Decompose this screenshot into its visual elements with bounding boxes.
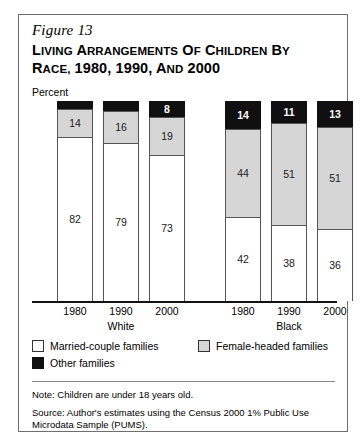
- legend-item-married[interactable]: Married-couple families: [32, 340, 159, 352]
- source-text: Source: Author's estimates using the Cen…: [32, 407, 328, 431]
- bar-segment-other: 11: [271, 101, 307, 123]
- bar-segment-value: 11: [283, 107, 294, 118]
- bar-segment-married: 82: [57, 137, 93, 301]
- bar-segment-female: 16: [103, 111, 139, 143]
- bar-segment-other: 14: [225, 101, 261, 129]
- chart-title-text: LIVING ARRANGEMENTS OF CHILDREN BY RACE,…: [32, 42, 290, 76]
- bar-segment-female: 19: [149, 117, 185, 155]
- bar-segment-other: 8: [149, 101, 185, 117]
- x-axis-group-label: Black: [254, 320, 324, 332]
- bar-stack: 1679: [103, 101, 139, 301]
- bar-segment-other: 13: [317, 101, 353, 127]
- bar-segment-value: 42: [237, 254, 249, 265]
- bar-stack: 81973: [149, 101, 185, 301]
- figure-number: Figure 13: [32, 22, 93, 39]
- x-axis-tick-label: 2000: [147, 305, 187, 317]
- bar-stack: 115138: [271, 101, 307, 301]
- bar-segment-married: 38: [271, 225, 307, 301]
- bar-segment-other: [103, 101, 139, 111]
- bar-stack: 144442: [225, 101, 261, 301]
- bar-segment-female: 51: [271, 123, 307, 225]
- bar-stack: 135136: [317, 101, 353, 301]
- legend-label-other: Other families: [50, 357, 115, 369]
- bar-segment-value: 44: [237, 168, 249, 179]
- legend-label-married: Married-couple families: [50, 340, 159, 352]
- chart-legend: Married-couple families Female-headed fa…: [32, 340, 332, 374]
- note-text: Note: Children are under 18 years old.: [32, 389, 332, 401]
- bar-segment-married: 73: [149, 155, 185, 301]
- bar-segment-female: 14: [57, 109, 93, 137]
- y-axis-unit-label: Percent: [32, 86, 68, 98]
- legend-swatch-married-icon: [32, 340, 44, 352]
- bar-segment-value: 82: [69, 214, 81, 225]
- bar-segment-married: 42: [225, 217, 261, 301]
- bar-segment-value: 38: [283, 258, 295, 269]
- bar-segment-value: 16: [115, 122, 127, 133]
- bar-segment-value: 51: [329, 173, 341, 184]
- bar-segment-married: 79: [103, 143, 139, 301]
- bar-segment-value: 73: [161, 223, 173, 234]
- legend-swatch-female-icon: [198, 340, 210, 352]
- bar-column[interactable]: 16795: [103, 101, 139, 301]
- bar-stack: 1482: [57, 101, 93, 301]
- bar-segment-married: 36: [317, 229, 353, 301]
- plot-area: 148241679581973144442115138135136: [32, 101, 337, 301]
- legend-item-other[interactable]: Other families: [32, 357, 115, 369]
- bar-segment-other: [57, 101, 93, 109]
- bar-segment-value: 36: [329, 260, 341, 271]
- x-axis-tick-label: 1990: [101, 305, 141, 317]
- page-title: LIVING ARRANGEMENTS OF CHILDREN BY RACE,…: [32, 42, 332, 78]
- x-axis-group-label: White: [86, 320, 156, 332]
- bar-segment-female: 44: [225, 129, 261, 217]
- bar-segment-value: 51: [283, 169, 295, 180]
- figure-container: Figure 13 LIVING ARRANGEMENTS OF CHILDRE…: [18, 14, 348, 432]
- bar-segment-value: 79: [115, 217, 127, 228]
- x-axis-tick-label: 2000: [315, 305, 355, 317]
- bar-segment-female: 51: [317, 127, 353, 229]
- bar-segment-value: 14: [237, 110, 249, 121]
- divider: [32, 381, 335, 382]
- legend-row-2: Other families: [32, 357, 332, 374]
- x-axis-tick-label: 1990: [269, 305, 309, 317]
- legend-label-female: Female-headed families: [216, 340, 328, 352]
- bar-segment-value: 8: [164, 104, 170, 115]
- x-axis-line: [32, 301, 337, 303]
- bar-segment-value: 19: [161, 131, 173, 142]
- legend-swatch-other-icon: [32, 357, 44, 369]
- bar-segment-value: 13: [329, 109, 341, 120]
- legend-row-1: Married-couple families Female-headed fa…: [32, 340, 332, 357]
- bar-segment-value: 14: [69, 118, 81, 129]
- x-axis-tick-label: 1980: [223, 305, 263, 317]
- bar-column[interactable]: 14824: [57, 101, 93, 301]
- x-axis-tick-label: 1980: [55, 305, 95, 317]
- legend-item-female[interactable]: Female-headed families: [198, 340, 328, 352]
